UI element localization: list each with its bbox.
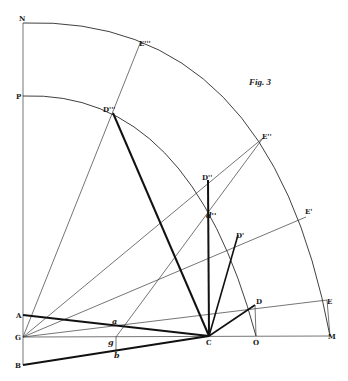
figure-title: Fig. 3 xyxy=(248,77,272,87)
label-E3: E''' xyxy=(139,39,151,48)
label-P: P xyxy=(16,92,22,101)
line-C-D2 xyxy=(208,180,209,336)
label-A: A xyxy=(15,311,22,320)
inner-arc-PO xyxy=(23,96,256,336)
ray-G-E3 xyxy=(23,41,141,337)
label-O: O xyxy=(253,338,259,347)
label-G: G xyxy=(15,333,21,342)
horizontal-axis-GM xyxy=(23,336,330,337)
label-E2: E'' xyxy=(262,132,272,141)
label-g: g xyxy=(108,337,114,347)
outer-arc-NM xyxy=(23,23,330,336)
label-C: C xyxy=(206,338,212,347)
ray-G-E2 xyxy=(23,138,263,337)
label-d2: d'' xyxy=(206,210,217,220)
label-M: M xyxy=(328,332,336,341)
label-B: B xyxy=(15,361,21,370)
label-E1: E' xyxy=(305,207,312,216)
label-E: E xyxy=(327,297,332,306)
label-a: a xyxy=(112,316,117,326)
geometric-figure: Fig. 3 N P A G B C O M D D' D'' D''' E E… xyxy=(0,0,348,381)
label-N: N xyxy=(19,14,26,23)
label-D3: D''' xyxy=(103,105,116,114)
label-D1: D' xyxy=(236,231,244,240)
line-C-D3 xyxy=(113,113,209,336)
label-D: D xyxy=(256,297,262,306)
label-D2: D'' xyxy=(202,173,212,182)
line-C-D1 xyxy=(209,235,238,336)
label-b: b xyxy=(114,350,120,360)
